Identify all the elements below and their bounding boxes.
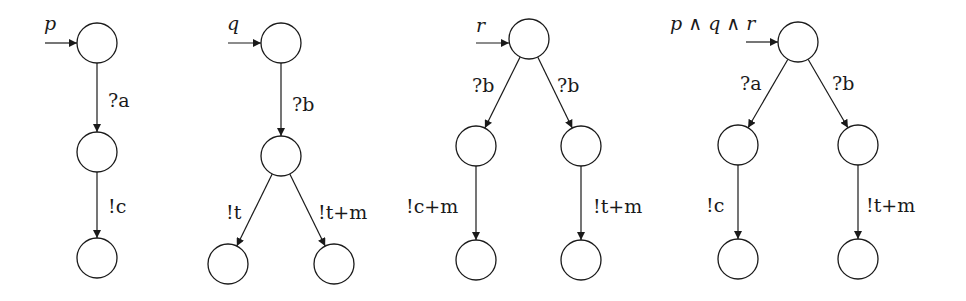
transition-label: !t+m [866, 194, 915, 216]
transition-label: ?b [832, 72, 854, 94]
state-node [718, 125, 758, 165]
state-node [77, 238, 117, 278]
state-node [718, 239, 758, 279]
state-node [456, 240, 496, 280]
start-label: p [44, 12, 56, 34]
transition-label: !c+m [406, 195, 458, 217]
state-node [77, 23, 117, 63]
transition-label: !t+m [318, 201, 367, 223]
state-node [778, 22, 818, 62]
transition-edge [237, 174, 272, 246]
transition-label: ?a [108, 89, 130, 111]
state-node [456, 126, 496, 166]
state-node [261, 23, 301, 63]
transition-label: ?b [292, 93, 314, 115]
start-label: r [476, 14, 487, 36]
start-label: p ∧ q ∧ r [670, 12, 757, 34]
automata-diagram: p?a!cq?b!t!t+mr?b?b!c+m!t+mp ∧ q ∧ r?a?b… [0, 0, 966, 301]
transition-label: ?b [472, 74, 494, 96]
transition-label: !t+m [593, 195, 642, 217]
state-node [509, 19, 549, 59]
transition-label: !c [706, 194, 724, 216]
state-node [77, 132, 117, 172]
transition-label: ?b [557, 74, 579, 96]
automata-group: p?a!cq?b!t!t+mr?b?b!c+m!t+mp ∧ q ∧ r?a?b… [44, 12, 915, 284]
start-label: q [227, 12, 239, 34]
automaton-0: p?a!c [44, 12, 130, 278]
state-node [838, 125, 878, 165]
transition-label: ?a [740, 72, 762, 94]
state-node [208, 244, 248, 284]
automaton-2: r?b?b!c+m!t+m [406, 14, 642, 280]
state-node [561, 240, 601, 280]
state-node [838, 239, 878, 279]
transition-label: !c [108, 195, 126, 217]
state-node [314, 244, 354, 284]
automaton-1: q?b!t!t+m [208, 12, 367, 284]
state-node [261, 136, 301, 176]
state-node [561, 126, 601, 166]
transition-label: !t [226, 201, 242, 223]
automaton-3: p ∧ q ∧ r?a?b!c!t+m [670, 12, 915, 279]
